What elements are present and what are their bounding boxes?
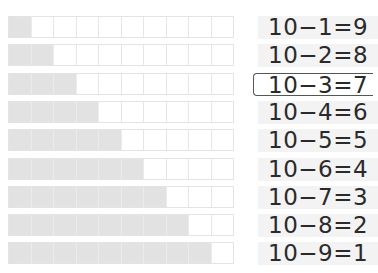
filled-cell [99,159,122,179]
filled-cell [189,243,212,263]
equation: 10−4=6 [258,101,378,124]
grid-row [8,16,234,38]
empty-cell [189,159,212,179]
empty-cell [122,102,145,122]
empty-cell [167,74,190,94]
filled-cell [54,74,77,94]
filled-cell [122,215,145,235]
filled-cell [122,159,145,179]
empty-cell [32,17,55,37]
filled-cell [77,159,100,179]
empty-cell [77,45,100,65]
equation: 10−1=9 [258,16,378,39]
filled-cell [32,45,55,65]
filled-cell [144,187,167,207]
filled-cell [167,215,190,235]
filled-cell [77,130,100,150]
empty-cell [212,130,234,150]
empty-cell [144,130,167,150]
filled-cell [32,215,55,235]
filled-cell [9,159,32,179]
filled-cell [99,215,122,235]
filled-cell [167,243,190,263]
filled-cell [54,130,77,150]
filled-cell [54,102,77,122]
grid-row [8,214,234,236]
filled-cell [9,74,32,94]
empty-cell [77,17,100,37]
empty-cell [212,17,234,37]
empty-cell [122,130,145,150]
empty-cell [189,130,212,150]
empty-cell [212,187,234,207]
filled-cell [77,243,100,263]
empty-cell [54,17,77,37]
filled-cell [122,243,145,263]
filled-cell [32,130,55,150]
filled-cell [144,243,167,263]
filled-cell [32,74,55,94]
empty-cell [144,17,167,37]
empty-cell [212,74,234,94]
equation: 10−5=5 [258,129,378,152]
equation: 10−9=1 [258,242,378,265]
filled-cell [144,215,167,235]
equation-highlighted: 10−3=7 [253,73,373,96]
empty-cell [189,45,212,65]
empty-cell [99,102,122,122]
filled-cell [32,243,55,263]
filled-cell [77,187,100,207]
filled-cell [32,102,55,122]
grid-row [8,242,234,264]
empty-cell [144,159,167,179]
empty-cell [122,45,145,65]
grid-row [8,73,234,95]
empty-cell [122,17,145,37]
empty-cell [189,187,212,207]
empty-cell [167,102,190,122]
empty-cell [99,17,122,37]
filled-cell [54,187,77,207]
empty-cell [212,45,234,65]
filled-cell [77,102,100,122]
empty-cell [167,17,190,37]
filled-cell [122,187,145,207]
filled-cell [9,187,32,207]
filled-cell [9,45,32,65]
filled-cell [99,243,122,263]
equation: 10−2=8 [258,44,378,67]
filled-cell [54,215,77,235]
filled-cell [99,187,122,207]
filled-cell [32,159,55,179]
empty-cell [144,74,167,94]
filled-cell [9,243,32,263]
empty-cell [77,74,100,94]
filled-cell [54,159,77,179]
empty-cell [167,45,190,65]
empty-cell [212,243,234,263]
filled-cell [54,243,77,263]
empty-cell [212,159,234,179]
empty-cell [189,102,212,122]
filled-cell [9,215,32,235]
empty-cell [144,102,167,122]
empty-cell [99,45,122,65]
empty-cell [54,45,77,65]
empty-cell [212,102,234,122]
equation: 10−7=3 [258,186,378,209]
filled-cell [9,17,32,37]
empty-cell [122,74,145,94]
empty-cell [189,17,212,37]
grid-row [8,158,234,180]
empty-cell [167,187,190,207]
equation: 10−8=2 [258,214,378,237]
grid-row [8,186,234,208]
empty-cell [189,215,212,235]
empty-cell [144,45,167,65]
filled-cell [9,102,32,122]
empty-cell [167,130,190,150]
equation: 10−6=4 [258,158,378,181]
filled-cell [99,130,122,150]
filled-cell [32,187,55,207]
filled-cell [9,130,32,150]
